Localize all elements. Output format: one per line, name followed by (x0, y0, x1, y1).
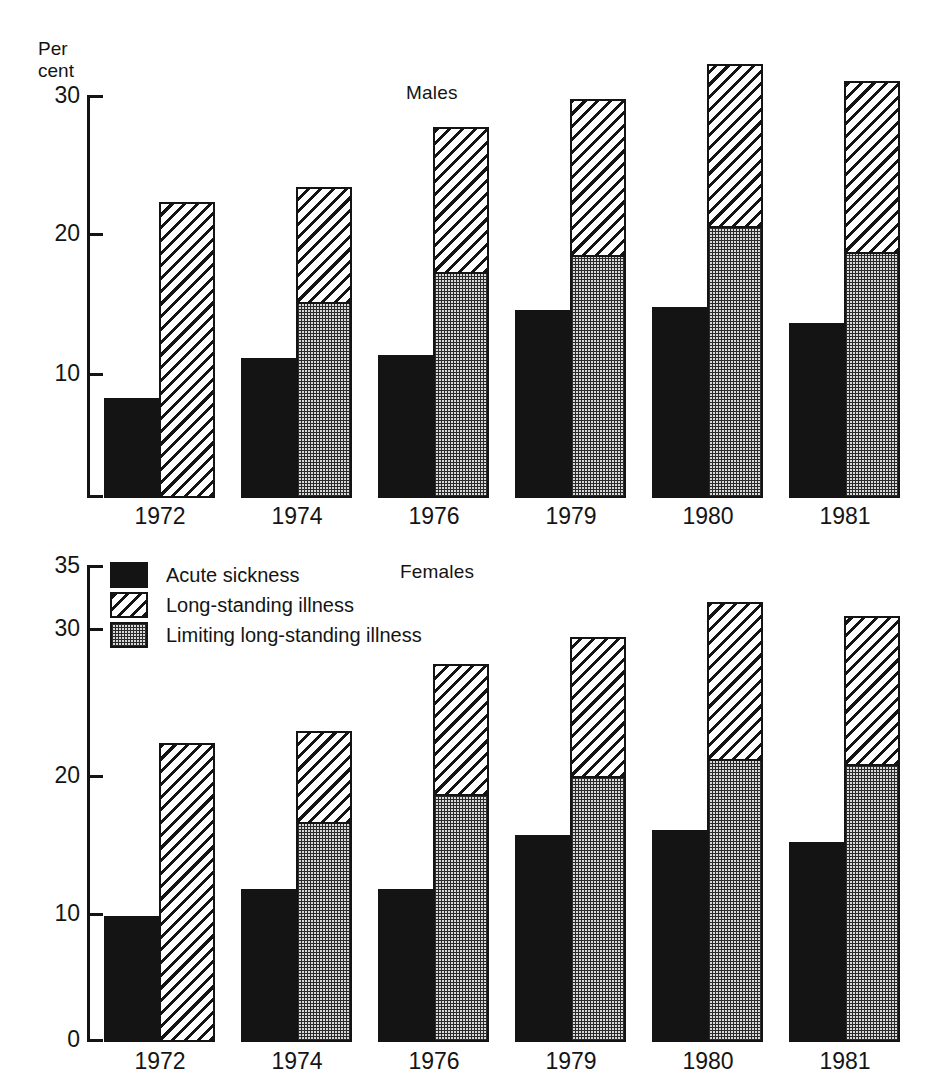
bar-females-1974-longstanding (296, 731, 352, 1042)
bar-females-1976-longstanding (433, 664, 489, 1042)
bar-females-1980-acute (652, 830, 707, 1042)
legend-swatch-hatch-icon (110, 592, 148, 618)
bar-males-1972-acute (104, 398, 159, 498)
y-tick-30-males (87, 95, 103, 98)
x-label-females-1981: 1981 (785, 1050, 905, 1073)
y-tick-10-females (87, 913, 103, 916)
bar-males-1979-acute (515, 310, 570, 498)
bar-females-1981-longstanding (844, 616, 900, 1042)
chart-panel-males: Per cent Males 30 20 10 1972 1974 1976 (0, 0, 930, 545)
y-tick-base-males (87, 495, 103, 498)
y-tick-label-10-females: 10 (20, 902, 80, 925)
x-label-females-1974: 1974 (237, 1050, 357, 1073)
segment-limiting-longstanding (435, 272, 487, 496)
segment-longstanding (846, 618, 898, 764)
segment-limiting-longstanding (298, 822, 350, 1040)
x-label-males-1981: 1981 (785, 505, 905, 528)
bar-males-1976-longstanding (433, 127, 489, 498)
segment-longstanding (298, 189, 350, 302)
x-label-females-1976: 1976 (374, 1050, 494, 1073)
x-label-males-1980: 1980 (648, 505, 768, 528)
bar-males-1980-longstanding (707, 64, 763, 498)
y-tick-35-females (87, 565, 103, 568)
y-tick-label-30-females: 30 (20, 617, 80, 640)
segment-longstanding (846, 83, 898, 252)
bar-females-1976-acute (378, 889, 433, 1042)
segment-limiting-longstanding (709, 226, 761, 496)
segment-longstanding (435, 666, 487, 794)
segment-limiting-longstanding (846, 252, 898, 496)
y-axis-unit-label: Per cent (38, 38, 74, 82)
y-axis-line-females (87, 565, 90, 1042)
y-tick-label-10-males: 10 (20, 362, 80, 385)
segment-longstanding (161, 204, 213, 496)
y-tick-30-females (87, 628, 103, 631)
bar-females-1980-longstanding (707, 602, 763, 1042)
x-label-males-1979: 1979 (511, 505, 631, 528)
y-tick-10-males (87, 373, 103, 376)
bar-females-1979-longstanding (570, 637, 626, 1042)
y-tick-label-20-males: 20 (20, 222, 80, 245)
legend-label-long-standing-illness: Long-standing illness (166, 595, 354, 615)
y-tick-label-30-males: 30 (20, 84, 80, 107)
bar-females-1974-acute (241, 889, 296, 1042)
segment-limiting-longstanding (709, 759, 761, 1040)
x-label-females-1980: 1980 (648, 1050, 768, 1073)
segment-longstanding (709, 66, 761, 226)
bar-females-1972-longstanding (159, 743, 215, 1042)
segment-limiting-longstanding (572, 255, 624, 496)
segment-longstanding (709, 604, 761, 759)
bar-males-1981-longstanding (844, 81, 900, 498)
legend: Acute sickness Long-standing illness Lim… (110, 560, 422, 650)
y-tick-20-males (87, 233, 103, 236)
bar-males-1981-acute (789, 323, 844, 498)
legend-item-long-standing-illness: Long-standing illness (110, 590, 422, 620)
bar-males-1979-longstanding (570, 99, 626, 498)
x-label-males-1974: 1974 (237, 505, 357, 528)
chart-panel-females: Females 35 30 20 10 0 Acute sickness Lon… (0, 545, 930, 1089)
y-tick-20-females (87, 775, 103, 778)
bar-males-1980-acute (652, 307, 707, 498)
segment-limiting-longstanding (435, 794, 487, 1040)
x-label-females-1979: 1979 (511, 1050, 631, 1073)
segment-longstanding (298, 733, 350, 822)
legend-item-limiting-long-standing-illness: Limiting long-standing illness (110, 620, 422, 650)
bar-females-1981-acute (789, 842, 844, 1042)
segment-longstanding (161, 745, 213, 1040)
bar-males-1974-longstanding (296, 187, 352, 498)
segment-limiting-longstanding (572, 776, 624, 1040)
legend-item-acute-sickness: Acute sickness (110, 560, 422, 590)
x-label-males-1976: 1976 (374, 505, 494, 528)
legend-label-limiting-long-standing-illness: Limiting long-standing illness (166, 625, 422, 645)
y-tick-0-females (87, 1039, 103, 1042)
y-tick-label-20-females: 20 (20, 764, 80, 787)
bar-females-1979-acute (515, 835, 570, 1042)
legend-swatch-dots-icon (110, 622, 148, 648)
x-label-males-1972: 1972 (100, 505, 220, 528)
segment-limiting-longstanding (298, 302, 350, 496)
segment-longstanding (572, 639, 624, 776)
figure-root: Per cent Males 30 20 10 1972 1974 1976 (0, 0, 930, 1089)
segment-longstanding (572, 101, 624, 255)
bar-males-1976-acute (378, 355, 433, 498)
bar-males-1972-longstanding (159, 202, 215, 498)
y-tick-label-0-females: 0 (20, 1028, 80, 1051)
chart-title-males: Males (406, 82, 458, 104)
y-axis-line-males (87, 95, 90, 498)
y-tick-label-35-females: 35 (20, 554, 80, 577)
x-label-females-1972: 1972 (100, 1050, 220, 1073)
segment-longstanding (435, 129, 487, 272)
bar-females-1972-acute (104, 916, 159, 1042)
legend-swatch-solid-icon (110, 562, 148, 588)
legend-label-acute-sickness: Acute sickness (166, 565, 299, 585)
bar-males-1974-acute (241, 358, 296, 498)
segment-limiting-longstanding (846, 764, 898, 1040)
